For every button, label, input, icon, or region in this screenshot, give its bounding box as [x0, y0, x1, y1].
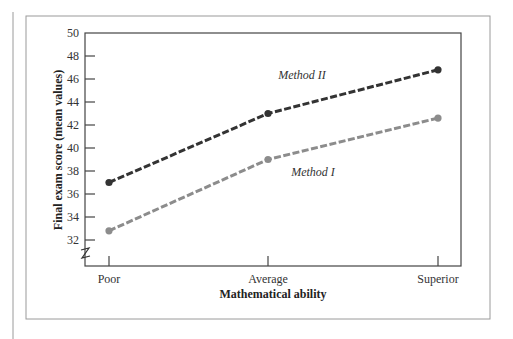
series-label-method-i: Method I: [290, 165, 336, 179]
x-tick-label: Superior: [417, 272, 458, 286]
y-tick-label: 38: [67, 164, 79, 178]
y-tick-label: 48: [67, 49, 79, 63]
plot-area: [85, 33, 461, 266]
data-point-method-i: [105, 227, 112, 234]
series-line-method-i: [109, 118, 438, 231]
y-tick-label: 32: [67, 233, 79, 247]
data-point-method-ii: [264, 110, 271, 117]
y-tick-label: 34: [67, 210, 79, 224]
y-tick-label: 36: [67, 187, 79, 201]
series-line-method-ii: [109, 70, 438, 183]
y-axis-ticks: 32343638404244464850: [67, 26, 95, 247]
data-point-method-ii: [434, 66, 441, 73]
y-tick-label: 40: [67, 141, 79, 155]
x-axis-title: Mathematical ability: [220, 287, 327, 301]
y-tick-label: 42: [67, 118, 79, 132]
x-axis-ticks: PoorAverageSuperior: [98, 256, 459, 286]
y-tick-label: 44: [67, 95, 79, 109]
x-tick-label: Average: [248, 272, 288, 286]
data-point-method-i: [434, 115, 441, 122]
y-tick-label: 50: [67, 26, 79, 40]
x-tick-label: Poor: [98, 272, 121, 286]
series-group: [105, 66, 441, 234]
chart: 32343638404244464850 PoorAverageSuperior…: [0, 0, 513, 339]
data-point-method-i: [264, 156, 271, 163]
series-label-method-ii: Method II: [277, 68, 327, 82]
data-point-method-ii: [105, 179, 112, 186]
y-axis-title: Final exam score (mean values): [51, 70, 65, 230]
y-tick-label: 46: [67, 72, 79, 86]
